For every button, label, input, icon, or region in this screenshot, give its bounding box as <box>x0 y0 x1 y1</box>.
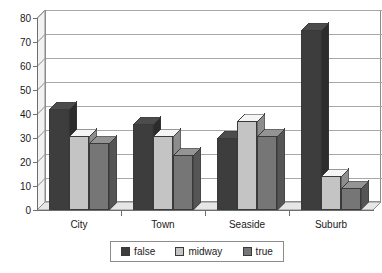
gridline <box>45 106 382 107</box>
bar-midway-seaside <box>237 121 257 210</box>
legend-swatch-icon <box>175 247 184 256</box>
legend-item-midway[interactable]: midway <box>175 246 222 257</box>
bar-front-face <box>133 124 153 210</box>
y-axis-tick-label: 80 <box>20 13 31 24</box>
legend-item-false[interactable]: false <box>121 246 155 257</box>
legend-label: false <box>134 246 155 257</box>
bar-front-face <box>237 121 257 210</box>
bar-side-face <box>109 135 117 210</box>
bar-side-face <box>193 147 201 210</box>
bar-front-face <box>173 155 193 210</box>
bar-front-face <box>69 136 89 210</box>
y-axis-tick-label: 20 <box>20 157 31 168</box>
bar-midway-city <box>69 136 89 210</box>
bar-front-face <box>257 136 277 210</box>
bar-midway-suburb <box>321 176 341 210</box>
x-axis-category-label: Suburb <box>315 219 347 230</box>
plot-area: 01020304050607080 CityTownSeasideSuburb <box>37 18 373 210</box>
gridline <box>45 82 382 83</box>
y-axis-tick-label: 70 <box>20 37 31 48</box>
x-axis-category-label: Seaside <box>229 219 265 230</box>
bar-front-face <box>217 138 237 210</box>
bar-front-face <box>301 30 321 210</box>
bar-false-city <box>49 109 69 210</box>
bar-false-seaside <box>217 138 237 210</box>
y-axis-tick-label: 30 <box>20 133 31 144</box>
legend-label: midway <box>188 246 222 257</box>
bar-true-suburb <box>341 188 361 210</box>
bar-front-face <box>89 143 109 210</box>
bar-false-town <box>133 124 153 210</box>
y-axis-tick-label: 0 <box>25 205 31 216</box>
x-axis-category-label: City <box>70 219 87 230</box>
bar-false-suburb <box>301 30 321 210</box>
gridline <box>45 34 382 35</box>
y-axis-tick-label: 60 <box>20 61 31 72</box>
gridline <box>45 58 382 59</box>
chart-legend: falsemidwaytrue <box>110 241 284 262</box>
bar-true-town <box>173 155 193 210</box>
y-axis-tick-label: 10 <box>20 181 31 192</box>
x-axis-tick <box>121 211 122 216</box>
bar-front-face <box>49 109 69 210</box>
gridline <box>45 10 382 11</box>
bar-midway-town <box>153 136 173 210</box>
legend-label: true <box>256 246 273 257</box>
bar-side-face <box>277 128 285 210</box>
y-axis-tick-label: 40 <box>20 109 31 120</box>
legend-item-true[interactable]: true <box>243 246 273 257</box>
bar-true-seaside <box>257 136 277 210</box>
x-axis-tick <box>289 211 290 216</box>
bar-front-face <box>321 176 341 210</box>
y-axis-back-line <box>45 10 46 202</box>
bar-true-city <box>89 143 109 210</box>
bar-front-face <box>341 188 361 210</box>
legend-swatch-icon <box>243 247 252 256</box>
x-axis-tick <box>205 211 206 216</box>
y-axis-tick-label: 50 <box>20 85 31 96</box>
x-axis-category-label: Town <box>151 219 174 230</box>
plot-wrapper: 01020304050607080 CityTownSeasideSuburb <box>0 0 381 233</box>
bar-front-face <box>153 136 173 210</box>
y-axis-line <box>37 18 38 211</box>
legend-swatch-icon <box>121 247 130 256</box>
